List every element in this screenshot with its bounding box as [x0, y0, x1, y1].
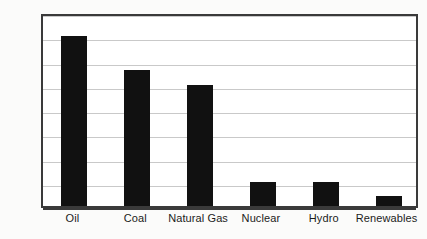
bar-slot	[357, 16, 420, 206]
bar-natural-gas	[187, 85, 213, 206]
bar-slot	[169, 16, 232, 206]
bar-slot	[232, 16, 295, 206]
bars-group	[43, 16, 416, 206]
bar-chart-figure: 0%5%10%15%20%25%30%35%40%OilCoalNatural …	[0, 0, 427, 239]
bar-nuclear	[250, 182, 276, 206]
plot-area	[41, 14, 418, 208]
x-tick-label-coal: Coal	[104, 212, 167, 224]
bar-slot	[106, 16, 169, 206]
bar-coal	[124, 70, 150, 206]
gridline-0pct	[43, 208, 416, 210]
bar-hydro	[313, 182, 339, 206]
bar-oil	[61, 36, 87, 206]
bar-slot	[43, 16, 106, 206]
bar-slot	[294, 16, 357, 206]
x-tick-label-oil: Oil	[41, 212, 104, 224]
x-tick-label-renewables: Renewables	[355, 212, 418, 224]
x-tick-label-natural-gas: Natural Gas	[167, 212, 230, 224]
bar-renewables	[376, 196, 402, 206]
x-tick-label-nuclear: Nuclear	[230, 212, 293, 224]
x-tick-label-hydro: Hydro	[292, 212, 355, 224]
